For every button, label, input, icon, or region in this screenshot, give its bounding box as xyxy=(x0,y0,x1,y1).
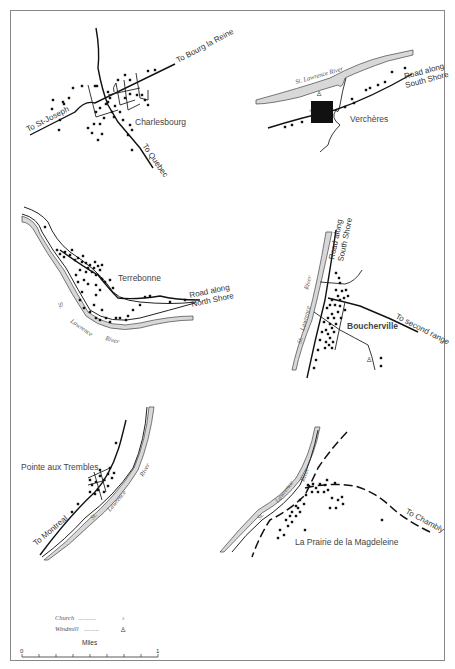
legend-label-church: Church xyxy=(55,614,74,621)
road-label-quebec: To Quebec xyxy=(140,142,170,179)
house-marker xyxy=(331,299,333,301)
house-marker xyxy=(82,255,84,257)
house-marker xyxy=(337,499,339,501)
house-marker xyxy=(303,503,305,505)
house-marker xyxy=(72,87,74,89)
house-marker xyxy=(331,347,333,349)
house-marker xyxy=(95,274,97,276)
house-marker xyxy=(377,84,379,86)
church-icon: ♁ xyxy=(308,107,313,113)
house-marker xyxy=(129,93,131,95)
house-marker xyxy=(52,99,54,101)
house-marker xyxy=(149,295,151,297)
house-marker xyxy=(333,331,335,333)
house-marker xyxy=(129,124,131,126)
house-marker xyxy=(291,124,293,126)
house-marker xyxy=(105,317,107,319)
house-marker xyxy=(91,132,93,134)
house-marker xyxy=(369,87,371,89)
house-marker xyxy=(325,341,327,343)
scale-max-label: 1 xyxy=(156,648,160,654)
house-marker xyxy=(81,261,83,263)
house-marker xyxy=(75,274,77,276)
house-marker xyxy=(112,287,114,289)
river-st-lawrence xyxy=(256,50,413,104)
house-marker xyxy=(101,264,103,266)
house-marker xyxy=(89,264,91,266)
map-terrebonne: Terrebonne Road along North Shore St. La… xyxy=(22,207,235,345)
town-label-terrebonne: Terrebonne xyxy=(118,273,161,283)
house-marker xyxy=(324,347,326,349)
house-marker xyxy=(101,278,103,280)
house-marker xyxy=(95,481,97,483)
house-marker xyxy=(347,295,349,297)
house-marker xyxy=(59,253,61,255)
house-marker xyxy=(335,507,337,509)
house-marker xyxy=(333,317,335,319)
house-marker xyxy=(338,277,340,279)
house-marker xyxy=(331,327,333,329)
road-label-chambly: To Chambly xyxy=(404,507,446,535)
house-marker xyxy=(99,107,101,109)
house-marker xyxy=(345,289,347,291)
house-marker xyxy=(184,299,186,301)
scale-bar: Miles 0 1 xyxy=(20,639,160,657)
house-marker xyxy=(287,525,289,527)
house-marker xyxy=(115,317,117,319)
house-marker xyxy=(131,149,133,151)
house-marker xyxy=(325,329,327,331)
house-marker xyxy=(384,81,386,83)
road-label-second-range: To second range xyxy=(394,312,451,347)
house-marker xyxy=(95,111,97,113)
house-marker xyxy=(334,482,336,484)
scale-title: Miles xyxy=(82,639,98,646)
house-marker xyxy=(404,67,406,69)
house-marker xyxy=(124,74,126,76)
house-marker xyxy=(101,309,103,311)
house-marker xyxy=(311,491,313,493)
house-marker xyxy=(91,484,93,486)
house-marker xyxy=(337,295,339,297)
house-marker xyxy=(119,111,121,113)
church-icon: ♁ xyxy=(121,615,126,621)
house-marker xyxy=(107,91,109,93)
house-marker xyxy=(327,489,329,491)
house-marker xyxy=(101,133,103,135)
house-marker xyxy=(114,105,116,107)
legend: Church ........... ♁ Windmill ......... … xyxy=(55,614,126,633)
house-marker xyxy=(99,123,101,125)
house-marker xyxy=(89,479,91,481)
house-marker xyxy=(103,117,105,119)
house-marker xyxy=(323,491,325,493)
house-marker xyxy=(277,537,279,539)
house-marker xyxy=(64,251,66,253)
house-marker xyxy=(109,97,111,99)
figure-border xyxy=(11,11,445,661)
house-marker xyxy=(107,101,109,103)
house-marker xyxy=(331,313,333,315)
river-bank-lower xyxy=(22,214,195,320)
house-marker xyxy=(99,269,101,271)
town-label-boucherville: Boucherville xyxy=(347,321,398,331)
house-marker xyxy=(111,111,113,113)
house-marker xyxy=(132,309,134,311)
house-marker xyxy=(97,139,99,141)
house-marker xyxy=(111,477,113,479)
river-bank-lp xyxy=(232,430,318,552)
windmill-icon: ♙ xyxy=(366,356,372,363)
river-label-river-b: River xyxy=(302,274,313,291)
house-marker xyxy=(299,511,301,513)
house-marker xyxy=(283,534,285,536)
house-marker xyxy=(113,472,115,474)
house-marker xyxy=(81,291,83,293)
house-marker xyxy=(147,70,149,72)
house-marker xyxy=(319,339,321,341)
house-marker xyxy=(332,341,334,343)
house-marker xyxy=(342,503,344,505)
house-marker xyxy=(89,491,91,493)
house-marker xyxy=(94,493,96,495)
house-marker xyxy=(74,259,76,261)
legend-item-church: Church ........... ♁ xyxy=(55,614,126,621)
house-marker xyxy=(339,305,341,307)
town-label-pointe-aux-trembles: Pointe aux Trembles xyxy=(21,462,98,472)
